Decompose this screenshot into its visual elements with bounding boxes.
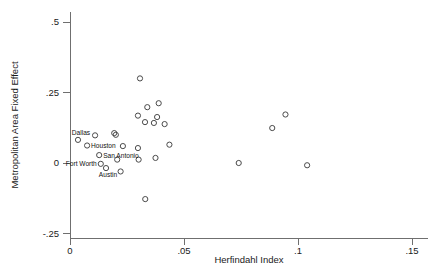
data-point-label: Fort Worth (66, 160, 97, 167)
data-point-marker (92, 133, 97, 138)
data-point-label: San Antonio (103, 152, 139, 159)
data-point-label-group: DallasHoustonSan AntonioFort WorthAustin (66, 129, 139, 178)
y-axis-ticks: .5.250-.25 (43, 16, 70, 239)
data-point-marker (137, 76, 142, 81)
data-point-marker (135, 113, 140, 118)
data-point-marker (283, 112, 288, 117)
data-point-marker (120, 143, 125, 148)
y-tick-label: .5 (51, 16, 59, 27)
data-point-marker (118, 169, 123, 174)
data-point-marker (145, 105, 150, 110)
data-point-label: Houston (91, 142, 116, 149)
plot-canvas: .5.250-.25 0.05.1.15 DallasHoustonSan An… (0, 0, 435, 275)
data-point-marker (305, 163, 310, 168)
y-axis-title: Metropolitan Area Fixed Effect (9, 61, 20, 188)
data-point-marker (143, 196, 148, 201)
data-point-marker (156, 101, 161, 106)
data-point-marker (162, 121, 167, 126)
data-point-marker (270, 125, 275, 130)
data-point-marker (135, 145, 140, 150)
data-point-label: Dallas (72, 129, 91, 136)
data-point-marker (97, 153, 102, 158)
data-point-marker (142, 120, 147, 125)
x-tick-label: .1 (294, 245, 302, 256)
data-point-marker (151, 120, 156, 125)
data-point-marker (153, 155, 158, 160)
data-point-marker (167, 142, 172, 147)
data-point-marker (236, 160, 241, 165)
y-tick-label: 0 (54, 157, 59, 168)
x-axis-title: Herfindahl Index (214, 254, 283, 265)
data-point-marker (98, 161, 103, 166)
data-point-label: Austin (99, 171, 118, 178)
y-tick-label: -.25 (43, 228, 59, 239)
data-point-marker (103, 165, 108, 170)
data-point-group (75, 76, 309, 202)
x-tick-label: .15 (405, 245, 418, 256)
data-point-marker (75, 137, 80, 142)
data-point-marker (154, 114, 159, 119)
data-point-marker (85, 143, 90, 148)
scatter-plot-figure: .5.250-.25 0.05.1.15 DallasHoustonSan An… (0, 0, 435, 275)
x-tick-label: 0 (67, 245, 72, 256)
y-tick-label: .25 (46, 87, 59, 98)
x-tick-label: .05 (177, 245, 190, 256)
